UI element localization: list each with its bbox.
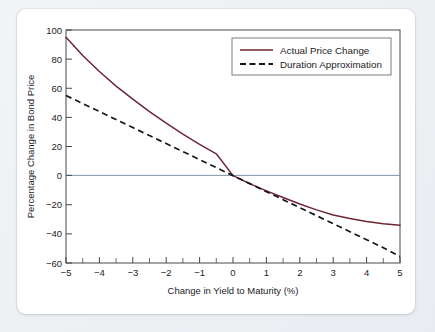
y-tick-label: −40 [46, 228, 62, 239]
legend-label-actual: Actual Price Change [280, 45, 370, 56]
x-tick-label: 5 [397, 267, 402, 278]
y-tick-label: 60 [51, 83, 62, 94]
x-axis-tick-labels: −5 −4 −3 −2 −1 0 1 2 3 4 5 [61, 267, 403, 278]
legend-label-duration: Duration Approximation [280, 59, 382, 70]
y-tick-label: 0 [57, 170, 62, 181]
y-tick-label: 20 [51, 141, 62, 152]
y-tick-label: −60 [46, 258, 62, 269]
x-tick-label: −4 [94, 267, 105, 278]
y-tick-label: 80 [51, 54, 62, 65]
x-tick-label: 2 [297, 267, 302, 278]
x-tick-label: −1 [194, 267, 205, 278]
y-axis-tick-labels: 100 80 60 40 20 0 −20 −40 −60 [46, 25, 62, 269]
figure-card: 100 80 60 40 20 0 −20 −40 −60 [17, 9, 415, 314]
bond-price-chart-svg: 100 80 60 40 20 0 −20 −40 −60 [17, 9, 415, 314]
page-background: 100 80 60 40 20 0 −20 −40 −60 [0, 0, 435, 332]
y-tick-label: 100 [46, 25, 62, 36]
x-tick-label: 4 [364, 267, 369, 278]
y-axis-title: Percentage Change in Bond Price [25, 75, 36, 219]
x-axis-title: Change in Yield to Maturity (%) [168, 285, 299, 296]
x-tick-label: 0 [230, 267, 235, 278]
y-tick-label: −20 [46, 199, 62, 210]
x-tick-label: −3 [127, 267, 138, 278]
x-tick-label: −2 [161, 267, 172, 278]
chart-container: 100 80 60 40 20 0 −20 −40 −60 [17, 9, 415, 314]
x-tick-label: 1 [264, 267, 269, 278]
y-tick-label: 40 [51, 112, 62, 123]
x-tick-label: 3 [331, 267, 336, 278]
x-tick-label: −5 [61, 267, 72, 278]
legend: Actual Price Change Duration Approximati… [232, 38, 391, 75]
